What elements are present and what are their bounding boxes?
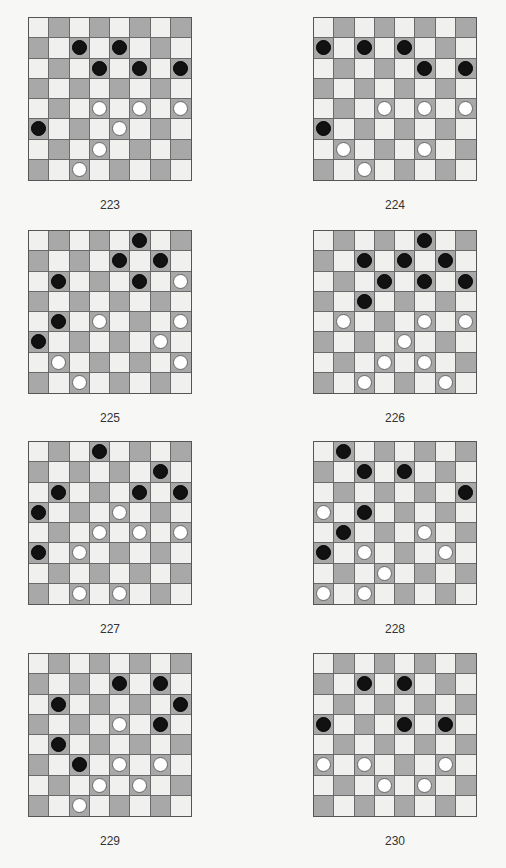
- white-piece: [357, 162, 372, 177]
- light-square: [456, 462, 476, 482]
- black-piece: [438, 717, 453, 732]
- light-square: [314, 59, 334, 79]
- dark-square: [456, 564, 476, 584]
- light-square: [90, 755, 110, 775]
- dark-square: [314, 755, 334, 775]
- dark-square: [29, 584, 49, 604]
- white-piece: [153, 757, 168, 772]
- light-square: [395, 18, 415, 38]
- white-piece: [112, 757, 127, 772]
- light-square: [171, 503, 191, 523]
- dark-square: [171, 140, 191, 160]
- black-piece: [458, 61, 473, 76]
- light-square: [130, 292, 150, 312]
- dark-square: [334, 695, 354, 715]
- black-piece: [72, 40, 87, 55]
- dark-square: [314, 79, 334, 99]
- black-piece: [51, 314, 66, 329]
- dark-square: [314, 674, 334, 694]
- light-square: [415, 332, 435, 352]
- light-square: [90, 674, 110, 694]
- dark-square: [436, 119, 456, 139]
- dark-square: [355, 503, 375, 523]
- puzzle-228: 228: [313, 441, 477, 605]
- puzzle-number: 228: [313, 622, 477, 636]
- white-piece: [173, 355, 188, 370]
- light-square: [49, 543, 69, 563]
- black-piece: [357, 464, 372, 479]
- light-square: [375, 462, 395, 482]
- light-square: [130, 79, 150, 99]
- light-square: [355, 523, 375, 543]
- light-square: [436, 776, 456, 796]
- dark-square: [171, 735, 191, 755]
- dark-square: [110, 462, 130, 482]
- light-square: [90, 543, 110, 563]
- black-piece: [357, 40, 372, 55]
- dark-square: [355, 119, 375, 139]
- dark-square: [456, 140, 476, 160]
- puzzle-229: 229: [28, 653, 192, 817]
- light-square: [415, 160, 435, 180]
- puzzle-number: 226: [313, 411, 477, 425]
- dark-square: [456, 18, 476, 38]
- light-square: [90, 373, 110, 393]
- light-square: [70, 231, 90, 251]
- dark-square: [151, 462, 171, 482]
- dark-square: [151, 160, 171, 180]
- black-piece: [316, 121, 331, 136]
- dark-square: [29, 79, 49, 99]
- dark-square: [110, 755, 130, 775]
- dark-square: [70, 462, 90, 482]
- dark-square: [90, 99, 110, 119]
- light-square: [375, 674, 395, 694]
- dark-square: [110, 332, 130, 352]
- dark-square: [456, 776, 476, 796]
- light-square: [29, 523, 49, 543]
- light-square: [171, 332, 191, 352]
- light-square: [415, 715, 435, 735]
- light-square: [70, 353, 90, 373]
- light-square: [334, 584, 354, 604]
- checkers-board: [28, 653, 192, 817]
- dark-square: [151, 715, 171, 735]
- dark-square: [334, 483, 354, 503]
- light-square: [70, 442, 90, 462]
- dark-square: [151, 674, 171, 694]
- dark-square: [334, 312, 354, 332]
- dark-square: [415, 695, 435, 715]
- dark-square: [314, 119, 334, 139]
- light-square: [395, 231, 415, 251]
- light-square: [90, 119, 110, 139]
- dark-square: [375, 99, 395, 119]
- dark-square: [314, 715, 334, 735]
- light-square: [415, 503, 435, 523]
- dark-square: [49, 442, 69, 462]
- dark-square: [49, 99, 69, 119]
- dark-square: [171, 99, 191, 119]
- light-square: [456, 755, 476, 775]
- light-square: [314, 18, 334, 38]
- light-square: [130, 38, 150, 58]
- black-piece: [173, 697, 188, 712]
- dark-square: [29, 38, 49, 58]
- puzzle-227: 227: [28, 441, 192, 605]
- dark-square: [456, 231, 476, 251]
- light-square: [355, 231, 375, 251]
- light-square: [130, 251, 150, 271]
- dark-square: [314, 373, 334, 393]
- light-square: [110, 654, 130, 674]
- light-square: [171, 755, 191, 775]
- dark-square: [151, 584, 171, 604]
- light-square: [334, 462, 354, 482]
- black-piece: [316, 40, 331, 55]
- light-square: [171, 79, 191, 99]
- white-piece: [51, 355, 66, 370]
- dark-square: [436, 160, 456, 180]
- light-square: [49, 292, 69, 312]
- checkers-board: [313, 17, 477, 181]
- light-square: [456, 373, 476, 393]
- dark-square: [334, 523, 354, 543]
- dark-square: [130, 654, 150, 674]
- black-piece: [336, 525, 351, 540]
